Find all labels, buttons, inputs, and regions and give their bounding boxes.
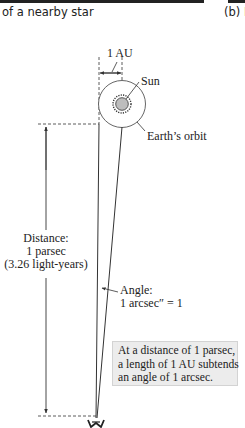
au-label: 1 AU	[107, 47, 133, 60]
distance-label: Distance: 1 parsec (3.26 light-years)	[3, 232, 89, 271]
observer-eye-icon	[88, 420, 104, 427]
note-line2: a length of 1 AU subtends	[118, 358, 235, 372]
angle-leader	[102, 288, 118, 292]
angle-label-line2: 1 arcsec″ = 1	[120, 297, 183, 310]
distance-label-line3: (3.26 light-years)	[3, 258, 89, 271]
sun-label: Sun	[141, 75, 160, 88]
earth-orbit-label: Earth’s orbit	[147, 130, 207, 143]
orbit-leader	[137, 122, 145, 131]
note-line1: At a distance of 1 parsec,	[118, 344, 235, 358]
note-line3: an angle of 1 arcsec.	[118, 371, 235, 385]
sightline-left	[96, 124, 99, 418]
au-leader	[112, 62, 117, 72]
angle-label: Angle: 1 arcsec″ = 1	[120, 284, 183, 310]
explanation-note: At a distance of 1 parsec, a length of 1…	[112, 341, 238, 386]
